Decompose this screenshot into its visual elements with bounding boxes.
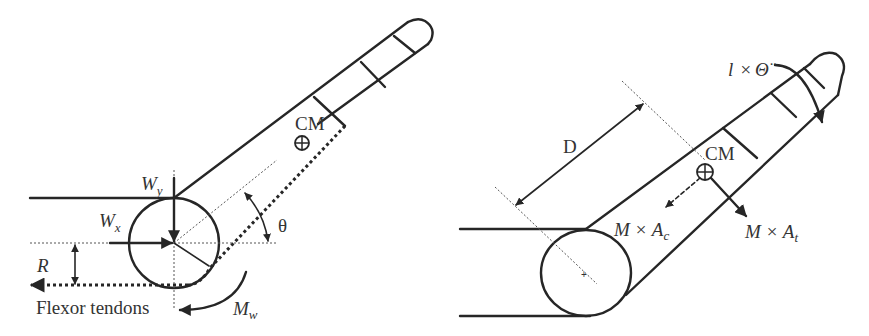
- r-label: R: [36, 255, 49, 276]
- joint-center-mark: +: [581, 269, 587, 280]
- cm-label: CM: [295, 113, 325, 134]
- fingertip: [408, 19, 433, 44]
- d-reference-line-upper: [622, 81, 705, 160]
- wy-label: Wy: [141, 173, 163, 198]
- centripetal-acceleration-arrow: [666, 178, 700, 207]
- center-of-mass-icon: [295, 136, 309, 150]
- segment-line-2: [771, 93, 796, 117]
- d-label: D: [563, 136, 577, 157]
- finger-bottom-edge: [318, 44, 428, 124]
- finger-top-edge: [586, 64, 810, 229]
- theta-label: θ: [278, 215, 287, 236]
- radius-line: [174, 243, 209, 266]
- wx-label: Wx: [99, 210, 121, 235]
- mat-label: M × At: [744, 221, 798, 245]
- flexor-tendons-label: Flexor tendons: [36, 297, 149, 318]
- finger-bottom-edge: [626, 95, 838, 295]
- inertia-label: l×Θ̈: [728, 59, 777, 80]
- mw-label: Mw: [232, 298, 258, 322]
- flexor-tendon-diagonal: [188, 126, 345, 285]
- finger-biomechanics-diagram: Wy Wx CM θ R Mw Flexor tendons +: [0, 0, 869, 336]
- left-figure: Wy Wx CM θ R Mw Flexor tendons: [30, 19, 433, 322]
- segment-line-3: [394, 36, 415, 53]
- right-figure: + l×Θ̈ D CM M × Ac M × At: [460, 53, 844, 316]
- finger-top-edge: [174, 22, 408, 198]
- d-dimension-arrow: [516, 104, 643, 205]
- mac-label: M × Ac: [613, 219, 669, 243]
- fingertip: [810, 53, 844, 95]
- cm-label: CM: [705, 143, 735, 164]
